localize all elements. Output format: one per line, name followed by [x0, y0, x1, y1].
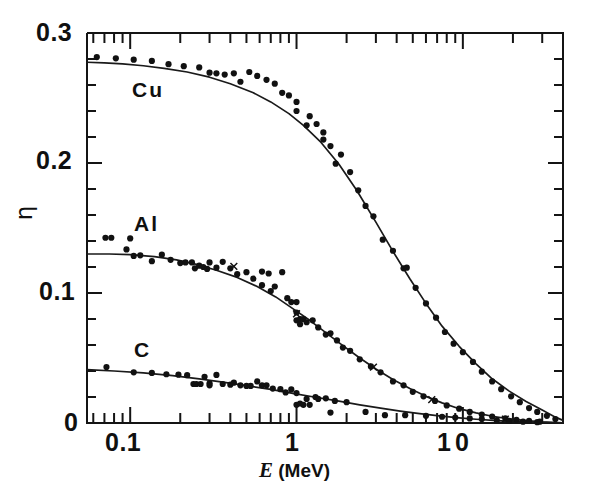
plot-canvas [0, 0, 589, 497]
data-point-cu [442, 329, 448, 335]
data-point-cu [451, 341, 457, 347]
data-point-cu [413, 285, 419, 291]
data-point-c [439, 414, 445, 420]
data-point-al [513, 417, 519, 423]
data-point-al [266, 270, 272, 276]
data-point-al [456, 406, 462, 412]
data-point-cu [347, 169, 353, 175]
data-point-al [177, 260, 183, 266]
data-point-cu [327, 143, 333, 149]
data-point-c [270, 385, 276, 391]
data-point-c [175, 372, 181, 378]
data-point-cu [320, 137, 326, 143]
data-point-al [243, 269, 249, 275]
data-point-al [250, 276, 256, 282]
data-point-c [327, 410, 333, 416]
data-point-cu [181, 63, 187, 69]
data-point-c [362, 409, 368, 415]
data-point-c [402, 412, 408, 418]
fitted-curve-cu [87, 62, 563, 420]
data-point-al [347, 348, 353, 354]
data-point-al [131, 253, 137, 259]
data-point-cu [196, 64, 202, 70]
data-point-cu [206, 70, 212, 76]
data-point-cu [390, 248, 396, 254]
data-point-al [390, 378, 396, 384]
data-point-cu [489, 378, 495, 384]
data-point-cu [526, 405, 532, 411]
data-point-c [131, 369, 137, 375]
data-point-c [300, 402, 306, 408]
data-point-cu [460, 349, 466, 355]
data-point-cu [470, 359, 476, 365]
data-point-c [304, 396, 310, 402]
data-point-al [334, 337, 340, 343]
data-point-al [213, 265, 219, 271]
data-point-cu [231, 70, 237, 76]
data-point-cu [279, 90, 285, 96]
data-point-al [340, 345, 346, 351]
data-point-cu [272, 81, 278, 87]
figure-root: 0.3 0.2 0.1 0 0.1 1 10 η E (MeV) Cu Al C [0, 0, 589, 497]
data-point-al [234, 271, 240, 277]
data-point-al [108, 235, 114, 241]
data-point-cu [254, 73, 260, 79]
data-point-c [315, 396, 321, 402]
data-point-c [343, 399, 349, 405]
data-point-c [494, 417, 500, 423]
data-point-cu [338, 151, 344, 157]
data-point-cu [362, 203, 368, 209]
data-point-cu [165, 61, 171, 67]
data-point-al [467, 409, 473, 415]
data-point-al [102, 235, 108, 241]
data-point-al [357, 356, 363, 362]
data-point-cu [313, 121, 319, 127]
data-point-cu [380, 237, 386, 243]
data-point-cu [113, 55, 119, 61]
data-point-c [263, 382, 269, 388]
data-point-cu [370, 213, 376, 219]
data-point-cu [423, 300, 429, 306]
data-point-cu [307, 113, 313, 119]
data-point-al [182, 259, 188, 265]
data-point-cu [534, 409, 540, 415]
data-point-cu [293, 108, 299, 114]
fitted-curves-group [87, 62, 563, 422]
data-point-cu [131, 57, 137, 63]
data-point-al [304, 319, 310, 325]
data-point-c [293, 390, 299, 396]
data-point-c [206, 382, 212, 388]
data-point-al [526, 418, 532, 424]
data-point-cu [355, 187, 361, 193]
data-point-c [288, 386, 294, 392]
data-point-al [444, 402, 450, 408]
data-point-cu [508, 393, 514, 399]
data-point-al [168, 257, 174, 263]
data-point-al [279, 269, 285, 275]
data-point-al [259, 268, 265, 274]
data-point-al [189, 259, 195, 265]
data-point-al [315, 324, 321, 330]
data-point-al [297, 321, 303, 327]
data-point-cu [237, 79, 243, 85]
data-point-al [137, 252, 143, 258]
data-point-cu [246, 69, 252, 75]
data-point-cu [479, 369, 485, 375]
data-point-cu [517, 399, 523, 405]
data-point-al [220, 259, 226, 265]
data-point-cu [286, 92, 292, 98]
data-point-c [231, 380, 237, 386]
data-point-al [293, 299, 299, 305]
data-point-al [377, 369, 383, 375]
data-point-cu [404, 265, 410, 271]
plot-frame [87, 33, 563, 423]
data-point-al [272, 283, 278, 289]
data-point-c [201, 374, 207, 380]
axes-group [87, 33, 563, 423]
data-point-al [149, 258, 155, 264]
data-point-c [283, 389, 289, 395]
data-point-c [254, 378, 260, 384]
data-point-c [103, 364, 109, 370]
axis-ticks-group [87, 33, 563, 423]
data-point-cu [320, 129, 326, 135]
